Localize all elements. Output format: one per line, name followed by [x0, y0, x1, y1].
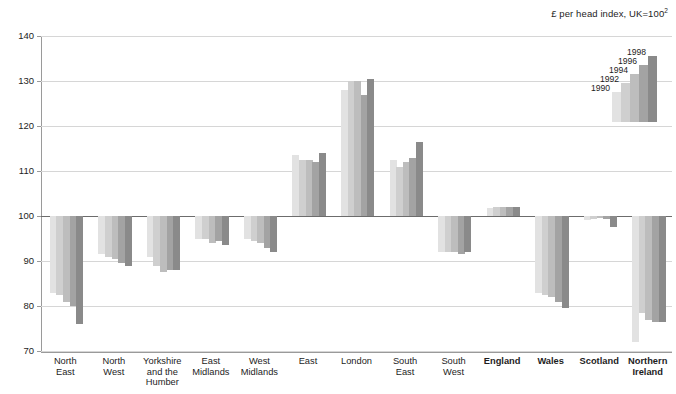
chart-legend: 19901992199419961998 [592, 44, 672, 122]
bar-group [429, 36, 478, 351]
y-tick-label: 140 [4, 30, 34, 41]
category-label-line: West [90, 367, 139, 378]
bar [513, 207, 520, 216]
y-tick-mark [37, 81, 41, 82]
category-label-line: Humber [138, 377, 187, 388]
category-label: NorthEast [41, 356, 90, 377]
category-label-line: West [429, 367, 478, 378]
category-label-line: London [332, 356, 381, 367]
category-label-line: Ireland [623, 367, 672, 378]
category-label-line: East [41, 367, 90, 378]
category-label-line: Scotland [575, 356, 624, 367]
chart-title-text: £ per head index, UK=100 [551, 8, 664, 19]
category-label: England [478, 356, 527, 367]
legend-label-1992: 1992 [585, 74, 619, 84]
y-tick-label: 110 [4, 165, 34, 176]
category-label: SouthEast [381, 356, 430, 377]
bar-group [381, 36, 430, 351]
legend-swatch-1996 [639, 65, 648, 122]
bar-group [235, 36, 284, 351]
category-label-line: South [381, 356, 430, 367]
y-tick-mark [37, 171, 41, 172]
category-label-line: East [187, 356, 236, 367]
category-label-line: South [429, 356, 478, 367]
category-label-line: East [284, 356, 333, 367]
bar [659, 216, 666, 322]
regional-index-bar-chart: £ per head index, UK=1002 70809010011012… [0, 0, 676, 394]
y-tick-mark [37, 126, 41, 127]
legend-swatch-1992 [621, 83, 630, 122]
category-label: London [332, 356, 381, 367]
bar-group [90, 36, 139, 351]
category-label-line: East [381, 367, 430, 378]
category-label: Scotland [575, 356, 624, 367]
bar-group [478, 36, 527, 351]
y-tick-label: 70 [4, 345, 34, 356]
category-label: NorthWest [90, 356, 139, 377]
category-label: SouthWest [429, 356, 478, 377]
bar-group [187, 36, 236, 351]
bar [610, 216, 617, 227]
bar [173, 216, 180, 270]
category-label-line: North [90, 356, 139, 367]
legend-label-1998: 1998 [612, 47, 646, 57]
category-label: Wales [526, 356, 575, 367]
bar-group [284, 36, 333, 351]
category-label-line: Midlands [187, 367, 236, 378]
legend-label-1996: 1996 [603, 56, 637, 66]
bar [222, 216, 229, 245]
category-label-line: Midlands [235, 367, 284, 378]
chart-title-footnote-marker: 2 [664, 7, 668, 14]
category-label-line: West [235, 356, 284, 367]
y-tick-label: 90 [4, 255, 34, 266]
bar [125, 216, 132, 266]
category-label: Yorkshireand theHumber [138, 356, 187, 388]
bar-group [332, 36, 381, 351]
bar-group [41, 36, 90, 351]
category-label-line: Yorkshire [138, 356, 187, 367]
bar [416, 142, 423, 216]
bar [367, 79, 374, 216]
bar [562, 216, 569, 308]
y-tick-mark [37, 351, 41, 352]
y-tick-label: 80 [4, 300, 34, 311]
category-label-line: England [478, 356, 527, 367]
category-label: NorthernIreland [623, 356, 672, 377]
legend-swatch-1998 [648, 56, 657, 122]
category-label-line: and the [138, 367, 187, 378]
gridline [41, 351, 672, 352]
category-label: EastMidlands [187, 356, 236, 377]
category-label-line: Wales [526, 356, 575, 367]
bar [464, 216, 471, 252]
category-label-line: North [41, 356, 90, 367]
category-label: East [284, 356, 333, 367]
chart-title: £ per head index, UK=1002 [551, 7, 668, 19]
category-label-line: Northern [623, 356, 672, 367]
y-tick-mark [37, 261, 41, 262]
legend-label-1994: 1994 [594, 65, 628, 75]
bar [76, 216, 83, 324]
y-tick-label: 130 [4, 75, 34, 86]
bar [270, 216, 277, 252]
category-label: WestMidlands [235, 356, 284, 377]
legend-swatch-1990 [612, 92, 621, 122]
y-tick-mark [37, 216, 41, 217]
legend-swatch-1994 [630, 74, 639, 122]
y-tick-mark [37, 36, 41, 37]
bar-group [526, 36, 575, 351]
y-tick-label: 100 [4, 210, 34, 221]
bar-group [138, 36, 187, 351]
y-tick-label: 120 [4, 120, 34, 131]
x-axis-line [41, 352, 672, 353]
bar [319, 153, 326, 216]
y-tick-mark [37, 306, 41, 307]
legend-label-1990: 1990 [576, 83, 610, 93]
